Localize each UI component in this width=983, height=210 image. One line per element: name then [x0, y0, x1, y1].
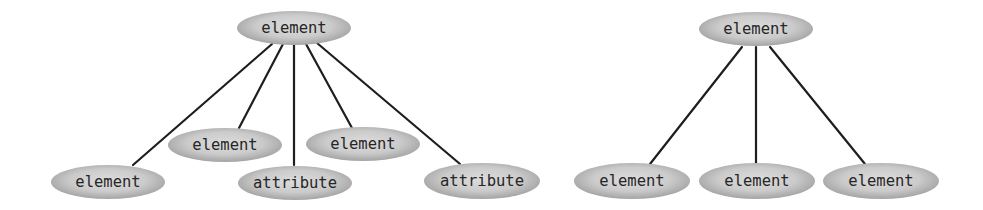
tree-edge — [306, 44, 352, 128]
left-tree-child-element-node: element — [51, 165, 165, 199]
left-tree-child-attribute-node: attribute — [424, 163, 540, 199]
node-label: element — [192, 136, 257, 154]
left-tree-root-node: element — [237, 11, 351, 45]
node-label: element — [723, 20, 788, 38]
node-label: element — [724, 172, 789, 190]
node-label: attribute — [440, 172, 524, 190]
tree-edge — [239, 44, 283, 128]
right-tree-root-node: element — [699, 12, 813, 46]
node-label: attribute — [253, 174, 337, 192]
node-label: element — [848, 172, 913, 190]
left-tree-child-attribute-node: attribute — [238, 166, 352, 200]
tree-diagrams-canvas: elementelementelementattributeelementatt… — [0, 0, 983, 210]
left-tree-child-element-node: element — [168, 128, 282, 162]
tree-edge — [770, 47, 865, 164]
node-label: element — [261, 19, 326, 37]
node-label: element — [330, 135, 395, 153]
node-label: element — [599, 172, 664, 190]
right-tree-child-element-node: element — [823, 163, 939, 199]
right-tree-child-element-node: element — [574, 163, 690, 199]
right-tree-child-element-node: element — [699, 163, 815, 199]
tree-edge — [650, 47, 742, 164]
nodes-layer: elementelementelementattributeelementatt… — [51, 11, 939, 200]
left-tree-child-element-node: element — [306, 127, 420, 161]
node-label: element — [75, 173, 140, 191]
